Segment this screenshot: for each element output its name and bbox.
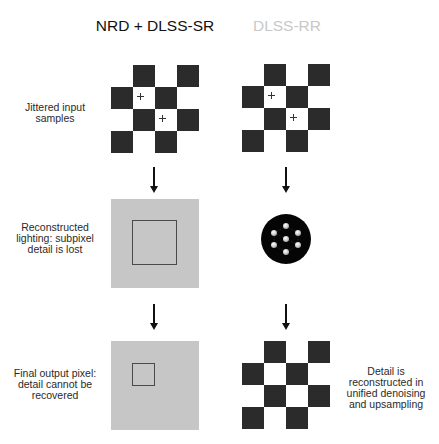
arrow-shaft [153,304,155,324]
neural-network-icon [261,214,311,264]
column-title-dlss-rr: DLSS-RR [236,17,338,35]
checker-cell-dark [177,65,199,87]
nn-node [295,242,301,248]
sample-point-icon [137,93,144,100]
label-jittered-input-samples: Jittered input samples [5,102,105,124]
column-title-nrd-dlss-sr: NRD + DLSS-SR [95,17,215,35]
checker-cell-dark [264,108,286,130]
checkerboard-reconstructed-output [242,341,330,429]
arrow-head [282,323,290,330]
checker-cell-dark [155,131,177,153]
label-detail-reconstructed: Detail is reconstructed in unified denoi… [336,366,436,410]
checker-cell-dark [286,86,308,108]
nn-node [271,242,277,248]
checker-cell-dark [133,109,155,131]
checker-cell-dark [308,385,330,407]
arrow-down-icon [150,167,158,193]
label-reconstructed-lighting: Reconstructed lighting: subpixel detail … [2,222,108,255]
checker-cell-dark [155,87,177,109]
checker-cell-dark [308,341,330,363]
nn-node [283,249,289,255]
sample-point-icon [290,114,297,121]
label-line: recovered [2,390,108,401]
sample-point-icon [268,92,275,99]
arrow-shaft [153,167,155,187]
checker-cell-dark [264,64,286,86]
label-line: and upsampling [336,399,436,410]
label-line: detail is lost [2,244,108,255]
reconstructed-lighting-pixel [111,199,199,288]
subpixel-detail-outline [132,220,177,265]
nn-node [283,236,289,242]
checker-cell-dark [286,363,308,385]
arrow-head [282,186,290,193]
nn-node [295,230,301,236]
checker-cell-dark [264,341,286,363]
checker-cell-dark [111,87,133,109]
checker-cell-dark [177,109,199,131]
sample-point-icon [159,115,166,122]
checker-cell-dark [308,108,330,130]
checker-cell-dark [308,64,330,86]
arrow-shaft [285,167,287,187]
checker-cell-dark [133,65,155,87]
label-final-output-pixel: Final output pixel: detail cannot be rec… [2,368,108,401]
checker-cell-dark [111,131,133,153]
nn-node [271,230,277,236]
arrow-shaft [285,304,287,324]
checker-cell-dark [242,86,264,108]
checker-cell-dark [242,407,264,429]
arrow-head [150,323,158,330]
checkerboard-input-dlss-rr [242,64,330,152]
checker-cell-dark [286,407,308,429]
nn-node [283,223,289,229]
checker-cell-dark [242,363,264,385]
arrow-down-icon [282,304,290,330]
arrow-down-icon [282,167,290,193]
arrow-down-icon [150,304,158,330]
arrow-head [150,186,158,193]
checker-cell-dark [242,130,264,152]
checker-cell-dark [264,385,286,407]
final-output-pixel [111,341,199,430]
label-line: samples [5,113,105,124]
checker-cell-dark [286,130,308,152]
checkerboard-input-nrd [111,65,199,153]
lost-detail-outline [132,363,155,386]
